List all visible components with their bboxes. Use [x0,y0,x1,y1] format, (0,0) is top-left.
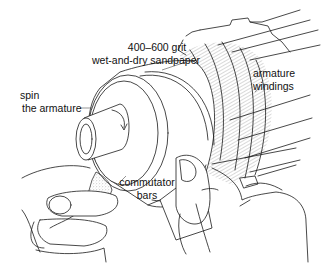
label-commutator-line2: bars [115,189,179,202]
label-commutator: commutator bars [115,176,179,202]
label-spin-line2: the armature [20,102,82,115]
label-spin-line1: spin [20,89,82,102]
label-spin: spin the armature [20,89,82,115]
label-sandpaper: 400–600 grit wet-and-dry sandpaper [86,41,206,67]
label-commutator-line1: commutator [115,176,179,189]
label-windings-line2: windings [253,80,295,93]
label-windings: armature windings [253,67,295,93]
label-sandpaper-line1: 400–600 grit [86,41,206,54]
label-sandpaper-line2: wet-and-dry sandpaper [86,54,206,67]
label-windings-line1: armature [253,67,295,80]
